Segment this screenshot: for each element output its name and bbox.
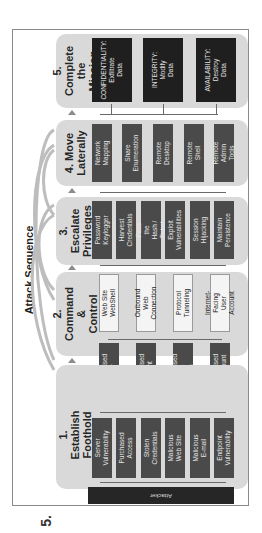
c2-web-site-webshell: Web Site WebShell — [99, 274, 119, 332]
privilege-harvest-credentials: Harvest Credentials — [116, 201, 136, 259]
lateral-share-enumeration: Share Enumeration — [122, 124, 142, 182]
connector — [163, 104, 164, 115]
stage-5-title: 5. Complete the Mission — [60, 34, 90, 108]
mission-confidentiality: CONFIDENTIALITY: Exfiltrate Data — [92, 38, 132, 102]
stage-1-title: 1. Establish Foothold — [60, 400, 90, 470]
foothold-malicious-web-site: Malicious Web Site — [165, 418, 185, 478]
sequence-curved-arrows — [20, 120, 60, 380]
stage-arrow-1-2 — [68, 358, 76, 363]
lateral-network-mapping: Network Mapping — [92, 124, 112, 182]
connector — [108, 339, 222, 340]
privilege-session-hijacking: Session Hijacking — [190, 201, 210, 259]
stage-3-title: 3. Escalate Privileges — [60, 197, 90, 265]
privilege-password-keylogger: Password Keylogger — [92, 201, 112, 259]
connector — [100, 412, 226, 413]
connector — [100, 192, 226, 193]
lateral-remote-admin-tools: Remote Admin Tools — [214, 124, 234, 182]
connector — [100, 114, 218, 115]
privilege-maintain-persistence: Maintain Persistence — [214, 201, 234, 259]
connector — [100, 265, 226, 266]
lateral-remote-shell: Remote Shell — [184, 124, 204, 182]
foothold-server-vulnerability: Server Vulnerability — [92, 418, 112, 478]
connector — [111, 104, 112, 115]
foothold-purchased-access: Purchased Access — [116, 418, 136, 478]
mission-availability: AVAILABILITY: Destroy Data — [196, 38, 236, 102]
mission-integrity: INTEGRITY: Modify Data — [143, 38, 183, 102]
privilege-pass-the-hash: Pass the Hash / Ticket — [141, 201, 161, 259]
privilege-exploit-vulnerabilities: Exploit Vulnerabilities — [165, 201, 185, 259]
foothold-malicious-email: Malicious E-mail — [190, 418, 210, 478]
connector — [100, 482, 226, 483]
c2-internet-facing-user-account: Internet-Facing User Account — [210, 274, 230, 332]
foothold-endpoint-vulnerability: Endpoint Vulnerability — [214, 418, 234, 478]
stage-arrow-2-3 — [68, 265, 76, 270]
stage-arrow-3-4 — [68, 188, 76, 193]
stage-4-title: 4. Move Laterally — [60, 120, 90, 186]
attacker-bar: Attacker — [88, 487, 234, 504]
c2-protocol-tunneling: Protocol Tunneling — [173, 274, 193, 332]
page-marker: 5. — [38, 515, 54, 527]
connector — [216, 104, 217, 115]
c2-outbound-web-connection: Outbound Web Connection — [136, 274, 156, 332]
foothold-stolen-credentials: Stolen Credentials — [141, 418, 161, 478]
stage-arrow-4-5 — [68, 110, 76, 115]
stage-2-title: 2. Command & Control — [60, 272, 90, 356]
lateral-remote-desktop: Remote Desktop — [153, 124, 173, 182]
